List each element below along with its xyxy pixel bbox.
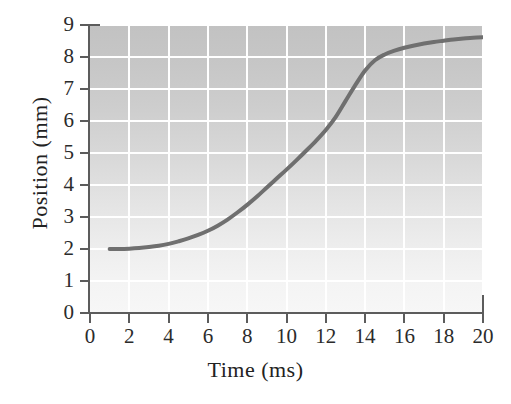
y-axis-title: Position (mm) xyxy=(27,43,53,283)
y-tick-6 xyxy=(80,120,89,122)
x-tick-label-text: 16 xyxy=(394,324,415,348)
x-tick-label-2: 2 xyxy=(109,326,149,347)
chart-figure: 0123456789 02468101214161820 Time (ms) P… xyxy=(0,0,511,404)
x-tick-label-text: 2 xyxy=(124,324,135,348)
series-position-vs-time xyxy=(110,37,483,249)
x-tick-label-text: 14 xyxy=(355,324,376,348)
x-tick-20 xyxy=(482,313,484,323)
x-tick-label-16: 16 xyxy=(384,326,424,347)
x-tick-12 xyxy=(325,313,327,323)
x-tick-14 xyxy=(364,313,366,323)
x-tick-label-0: 0 xyxy=(70,326,110,347)
x-tick-8 xyxy=(246,313,248,323)
x-tick-label-6: 6 xyxy=(188,326,228,347)
x-tick-label-10: 10 xyxy=(267,326,307,347)
x-tick-6 xyxy=(207,313,209,323)
x-tick-10 xyxy=(286,313,288,323)
y-tick-2 xyxy=(80,248,89,250)
y-tick-4 xyxy=(80,184,89,186)
x-tick-label-12: 12 xyxy=(306,326,346,347)
y-axis-top-cap xyxy=(88,24,100,26)
y-tick-5 xyxy=(80,152,89,154)
x-axis-right-cap xyxy=(482,295,484,313)
x-tick-label-text: 0 xyxy=(85,324,96,348)
y-tick-label-text: 9 xyxy=(48,14,74,35)
x-tick-label-text: 6 xyxy=(203,324,214,348)
x-tick-label-text: 18 xyxy=(433,324,454,348)
x-axis-title: Time (ms) xyxy=(0,357,511,383)
x-tick-0 xyxy=(89,313,91,323)
x-tick-18 xyxy=(443,313,445,323)
x-tick-label-8: 8 xyxy=(227,326,267,347)
x-tick-label-text: 12 xyxy=(315,324,336,348)
x-tick-label-20: 20 xyxy=(463,326,503,347)
x-tick-label-4: 4 xyxy=(149,326,189,347)
y-tick-1 xyxy=(80,280,89,282)
x-tick-label-text: 4 xyxy=(163,324,174,348)
x-tick-label-text: 20 xyxy=(473,324,494,348)
plot-area xyxy=(90,25,483,313)
x-tick-label-14: 14 xyxy=(345,326,385,347)
x-tick-4 xyxy=(168,313,170,323)
y-tick-0 xyxy=(80,312,89,314)
y-tick-7 xyxy=(80,88,89,90)
x-tick-16 xyxy=(403,313,405,323)
x-tick-label-text: 8 xyxy=(242,324,253,348)
y-tick-label-9: 9 xyxy=(46,14,74,35)
y-axis-line xyxy=(88,25,90,314)
y-tick-3 xyxy=(80,216,89,218)
y-tick-label-0: 0 xyxy=(46,302,74,323)
data-curve-layer xyxy=(90,25,483,313)
y-tick-9 xyxy=(80,24,89,26)
x-tick-2 xyxy=(128,313,130,323)
y-tick-label-text: 0 xyxy=(48,302,74,323)
x-tick-label-18: 18 xyxy=(424,326,464,347)
x-tick-label-text: 10 xyxy=(276,324,297,348)
y-tick-8 xyxy=(80,56,89,58)
